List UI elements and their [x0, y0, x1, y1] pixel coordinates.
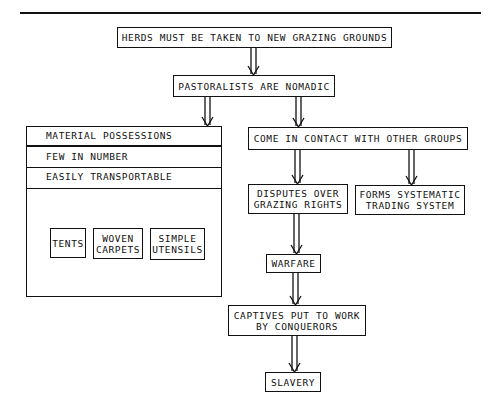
material-row-transportable: EASILY TRANSPORTABLE	[27, 168, 221, 189]
material-row-title: MATERIAL POSSESSIONS	[27, 127, 221, 147]
item-tents: TENTS	[50, 228, 86, 258]
material-row-few: FEW IN NUMBER	[27, 148, 221, 168]
arrow-pastoralists-to-contact	[293, 97, 304, 127]
node-contact: COME IN CONTACT WITH OTHER GROUPS	[248, 127, 468, 150]
item-simple-utensils: SIMPLE UTENSILS	[150, 228, 205, 260]
node-pastoralists: PASTORALISTS ARE NOMADIC	[173, 75, 335, 97]
node-warfare: WARFARE	[266, 254, 321, 273]
node-slavery: SLAVERY	[265, 372, 321, 392]
arrow-disputes-to-warfare	[291, 214, 302, 254]
item-woven-carpets: WOVEN CARPETS	[93, 228, 143, 259]
arrow-warfare-to-captives	[290, 272, 301, 305]
node-trading: FORMS SYSTEMATIC TRADING SYSTEM	[355, 185, 465, 215]
arrow-contact-to-disputes	[292, 150, 303, 184]
arrow-captives-to-slavery	[289, 336, 300, 372]
node-disputes: DISPUTES OVER GRAZING RIGHTS	[248, 184, 348, 214]
node-material-possessions: MATERIAL POSSESSIONS FEW IN NUMBER EASIL…	[26, 126, 222, 297]
arrow-contact-to-trading	[406, 150, 417, 185]
node-captives: CAPTIVES PUT TO WORK BY CONQUERORS	[228, 305, 366, 336]
node-herds: HERDS MUST BE TAKEN TO NEW GRAZING GROUN…	[117, 27, 392, 48]
arrow-herds-to-pastoralists	[248, 48, 259, 75]
arrow-pastoralists-to-material	[202, 97, 213, 126]
